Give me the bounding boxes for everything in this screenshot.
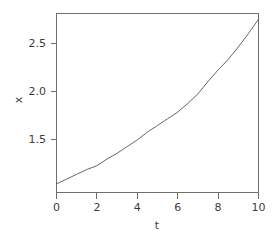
x-tick-label-1: 2 xyxy=(93,201,100,214)
y-tick-label-2: 2.5 xyxy=(29,37,47,50)
line-chart-svg: 2.5 2.0 1.5 x 0 2 4 6 8 10 t xyxy=(0,0,272,234)
x-tick-label-3: 6 xyxy=(174,201,181,214)
y-tick-label-1: 2.0 xyxy=(29,85,47,98)
x-axis-ticks xyxy=(57,193,259,199)
x-tick-label-2: 4 xyxy=(134,201,141,214)
x-tick-label-0: 0 xyxy=(53,201,60,214)
y-axis-label: x xyxy=(12,96,25,103)
x-tick-label-4: 8 xyxy=(215,201,222,214)
y-tick-label-0: 1.5 xyxy=(29,133,47,146)
data-series-line xyxy=(57,19,259,184)
y-axis-ticks xyxy=(51,44,57,140)
plot-frame xyxy=(57,14,259,193)
x-axis-label: t xyxy=(155,219,160,232)
chart-figure: 2.5 2.0 1.5 x 0 2 4 6 8 10 t xyxy=(0,0,272,234)
x-tick-label-5: 10 xyxy=(252,201,266,214)
